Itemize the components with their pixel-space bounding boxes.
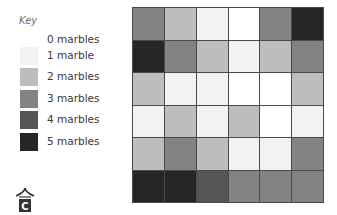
legend-item-1: 1 marble [20, 47, 130, 65]
legend-item-5: 5 marbles [20, 133, 130, 151]
logo-icon: C [14, 187, 36, 213]
legend-item-3: 3 marbles [20, 90, 130, 108]
grid-cell [260, 8, 291, 40]
grid-cell [133, 8, 164, 40]
legend-item-4: 4 marbles [20, 111, 130, 129]
legend-swatch [20, 68, 38, 86]
legend-swatch [20, 90, 38, 108]
grid-cell [260, 106, 291, 138]
grid-cell [165, 171, 196, 203]
legend-swatch [20, 133, 38, 151]
legend-title: Key [19, 15, 37, 26]
grid-cell [197, 138, 228, 170]
grid-cell [197, 73, 228, 105]
grid-cell [165, 41, 196, 73]
legend-label: 4 marbles [47, 113, 100, 125]
legend-label: 1 marble [47, 49, 94, 61]
logo-letter: C [21, 201, 28, 212]
grid-cell [165, 8, 196, 40]
grid-cell [133, 41, 164, 73]
grid-cell [260, 138, 291, 170]
grid-cell [229, 106, 260, 138]
legend-swatch [20, 47, 38, 65]
grid-cell [229, 8, 260, 40]
grid-cell [133, 138, 164, 170]
grid-cell [292, 41, 323, 73]
grid-cell [292, 138, 323, 170]
grid-cell [197, 41, 228, 73]
grid-cell [260, 73, 291, 105]
grid-cell [292, 73, 323, 105]
legend-label: 5 marbles [47, 135, 100, 147]
publisher-logo: C [14, 187, 36, 213]
grid-cell [133, 73, 164, 105]
legend-swatch [20, 111, 38, 129]
grid-cell [133, 106, 164, 138]
grid-cell [229, 138, 260, 170]
grid-cell [292, 8, 323, 40]
grid-cell [165, 138, 196, 170]
grid-cell [197, 171, 228, 203]
grid-cell [197, 106, 228, 138]
marble-grid [132, 7, 324, 203]
legend-item-2: 2 marbles [20, 68, 130, 86]
legend-label: 2 marbles [47, 70, 100, 82]
grid-cell [292, 171, 323, 203]
grid-cell [260, 171, 291, 203]
grid-cell [133, 171, 164, 203]
grid-cell [292, 106, 323, 138]
grid-cell [229, 73, 260, 105]
grid-cell [229, 171, 260, 203]
grid-cell [165, 106, 196, 138]
grid-cell [165, 73, 196, 105]
grid-cell [197, 8, 228, 40]
legend-label: 0 marbles [47, 33, 100, 45]
grid-cell [260, 41, 291, 73]
grid-cell [229, 41, 260, 73]
legend-label: 3 marbles [47, 92, 100, 104]
